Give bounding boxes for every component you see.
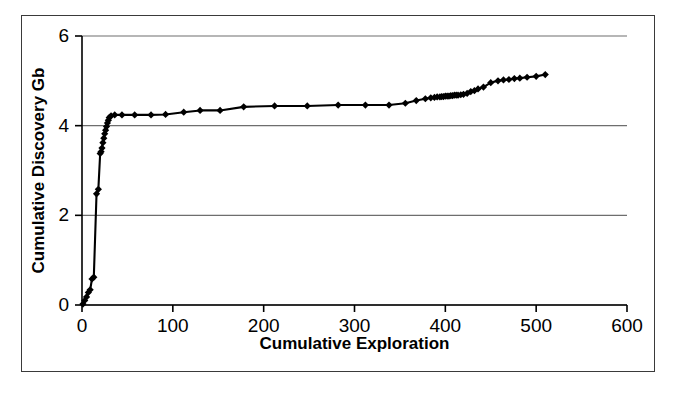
y-tick-marks-group (75, 36, 82, 305)
figure-container: 0246 0100200300400500600 Cumulative Disc… (0, 0, 674, 396)
y-tick-label-0: 0 (58, 294, 69, 315)
chart-plot-area: 0246 0100200300400500600 Cumulative Disc… (0, 0, 674, 396)
data-point-marker (147, 111, 154, 118)
data-point-marker (216, 107, 223, 114)
data-point-marker (131, 111, 138, 118)
x-tick-label-500: 500 (520, 315, 552, 336)
data-point-marker (362, 101, 369, 108)
x-tick-labels-group: 0100200300400500600 (77, 315, 643, 336)
data-point-marker (162, 111, 169, 118)
data-point-marker (240, 103, 247, 110)
x-axis-title: Cumulative Exploration (260, 334, 450, 353)
x-tick-label-300: 300 (339, 315, 371, 336)
x-tick-marks-group (82, 305, 627, 312)
data-point-marker (118, 111, 125, 118)
data-point-marker (413, 97, 420, 104)
x-tick-label-400: 400 (429, 315, 461, 336)
data-point-marker (402, 100, 409, 107)
y-tick-label-4: 4 (58, 115, 69, 136)
data-point-marker (533, 73, 540, 80)
y-tick-labels-group: 0246 (58, 25, 69, 315)
x-tick-label-0: 0 (77, 315, 88, 336)
data-point-marker (271, 102, 278, 109)
x-tick-label-200: 200 (248, 315, 280, 336)
y-tick-label-6: 6 (58, 25, 69, 46)
data-point-marker (335, 101, 342, 108)
y-axis-title: Cumulative Discovery Gb (29, 68, 48, 274)
data-point-marker (542, 71, 549, 78)
x-tick-label-600: 600 (611, 315, 643, 336)
x-tick-label-100: 100 (157, 315, 189, 336)
data-series-line (83, 75, 545, 305)
data-point-marker (196, 107, 203, 114)
data-point-marker (523, 74, 530, 81)
data-point-marker (505, 76, 512, 83)
data-point-marker (516, 75, 523, 82)
data-point-marker (422, 95, 429, 102)
data-point-marker (180, 109, 187, 116)
data-point-marker (494, 77, 501, 84)
y-tick-label-2: 2 (58, 204, 69, 225)
data-point-marker (304, 102, 311, 109)
data-point-marker (385, 101, 392, 108)
